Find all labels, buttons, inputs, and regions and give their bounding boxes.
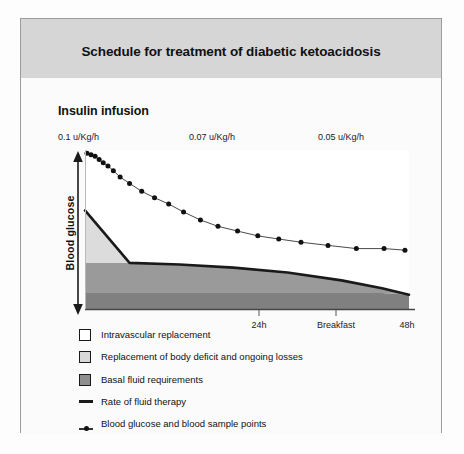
- chart-body: Insulin infusion 0.1 u/Kg/h 0.07 u/Kg/h …: [21, 78, 441, 434]
- figure-panel: Schedule for treatment of diabetic ketoa…: [20, 18, 442, 433]
- legend-item-body-deficit: Replacement of body deficit and ongoing …: [79, 350, 379, 365]
- blood-glucose-sample-point: [101, 160, 106, 165]
- legend-item-fluid-rate: Rate of fluid therapy: [79, 395, 379, 410]
- blood-glucose-sample-point: [97, 157, 102, 162]
- blood-glucose-sample-point: [93, 154, 98, 159]
- blood-glucose-sample-point: [111, 168, 116, 173]
- blood-glucose-sample-point: [166, 202, 171, 207]
- blood-glucose-sample-point: [326, 243, 331, 248]
- blood-glucose-sample-point: [198, 217, 203, 222]
- legend-label-intravascular: Intravascular replacement: [101, 328, 210, 341]
- legend-item-blood-glucose: Blood glucose and blood sample points: [79, 417, 379, 436]
- y-axis-label: Blood glucose: [64, 196, 76, 271]
- legend-swatch-body-deficit-icon: [79, 351, 91, 363]
- legend-label-basal-fluid: Basal fluid requirements: [101, 373, 203, 386]
- legend-point-marker-icon: [79, 422, 93, 436]
- y-axis-arrow-head-bottom: [73, 304, 83, 315]
- x-tick-label-48h: 48h: [399, 320, 414, 330]
- blood-glucose-sample-point: [299, 240, 304, 245]
- blood-glucose-sample-point: [127, 181, 132, 186]
- blood-glucose-sample-point: [382, 246, 387, 251]
- legend-label-blood-glucose: Blood glucose and blood sample points: [101, 417, 266, 430]
- blood-glucose-sample-point: [215, 224, 220, 229]
- legend-label-fluid-rate: Rate of fluid therapy: [101, 395, 186, 408]
- page-title: Schedule for treatment of diabetic ketoa…: [21, 19, 441, 78]
- legend-item-basal-fluid: Basal fluid requirements: [79, 373, 379, 388]
- blood-glucose-sample-point: [402, 248, 407, 253]
- legend-item-intravascular: Intravascular replacement: [79, 328, 379, 343]
- legend-swatch-basal-fluid-icon: [79, 374, 91, 386]
- title-band: Schedule for treatment of diabetic ketoa…: [21, 19, 441, 78]
- area-basal-fluid: [85, 293, 409, 309]
- figure-root: Schedule for treatment of diabetic ketoa…: [0, 0, 464, 454]
- blood-glucose-sample-point: [118, 175, 123, 180]
- chart-legend: Intravascular replacement Replacement of…: [79, 328, 379, 443]
- blood-glucose-sample-point: [139, 189, 144, 194]
- blood-glucose-sample-point: [235, 229, 240, 234]
- legend-label-body-deficit: Replacement of body deficit and ongoing …: [101, 350, 303, 363]
- legend-swatch-intravascular-icon: [79, 329, 91, 341]
- blood-glucose-sample-point: [255, 233, 260, 238]
- y-axis-arrow-head-top: [73, 151, 83, 162]
- blood-glucose-sample-point: [354, 246, 359, 251]
- blood-glucose-sample-point: [105, 163, 110, 168]
- blood-glucose-sample-point: [181, 210, 186, 215]
- legend-line-icon: [79, 395, 93, 407]
- blood-glucose-sample-point: [276, 237, 281, 242]
- blood-glucose-sample-point: [152, 195, 157, 200]
